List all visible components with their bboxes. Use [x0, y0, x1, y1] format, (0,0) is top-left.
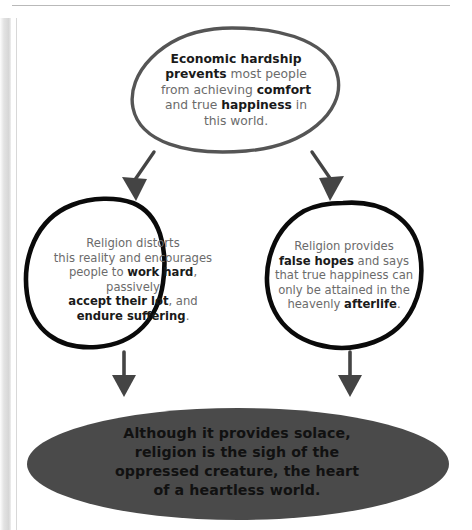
connector-right-to-bottom — [338, 352, 362, 397]
connector-left-to-bottom — [112, 352, 136, 397]
diagram-page: Economic hardshipprevents most peoplefro… — [0, 0, 472, 530]
bottom-node-label: Although it provides solace,religion is … — [76, 424, 398, 500]
connector-top-to-right — [312, 152, 344, 201]
connector-top-to-left — [122, 152, 154, 201]
left-node-label: Religion distortsthis reality and encour… — [44, 236, 222, 324]
right-node-label: Religion providesfalse hopes and saystha… — [258, 239, 430, 312]
top-node-label: Economic hardshipprevents most peoplefro… — [150, 52, 322, 129]
